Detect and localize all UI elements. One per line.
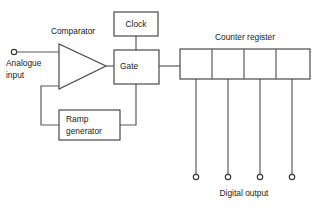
comparator-triangle bbox=[59, 44, 106, 89]
digital-output-terminal-2 bbox=[257, 174, 262, 179]
block-diagram: Comparator Clock Gate Counter register R… bbox=[0, 0, 316, 208]
clock-label: Clock bbox=[126, 19, 148, 29]
wire-ramp-to-comparator bbox=[41, 86, 59, 125]
counter-register-label: Counter register bbox=[215, 32, 275, 42]
analogue-input-label-line2: input bbox=[6, 70, 25, 80]
ramp-generator-label-line2: generator bbox=[66, 126, 102, 136]
analogue-input-terminal bbox=[11, 49, 16, 54]
counter-register-box bbox=[180, 49, 310, 79]
digital-output-terminal-1 bbox=[225, 174, 230, 179]
gate-label: Gate bbox=[120, 61, 138, 71]
digital-output-label: Digital output bbox=[220, 188, 270, 198]
comparator-block bbox=[59, 44, 106, 89]
comparator-label: Comparator bbox=[51, 26, 95, 36]
digital-output-terminal-0 bbox=[193, 174, 198, 179]
analogue-input-label-line1: Analogue bbox=[6, 58, 42, 68]
digital-output-terminal-3 bbox=[289, 174, 294, 179]
counter-register-block bbox=[180, 49, 310, 79]
ramp-generator-label-line1: Ramp bbox=[66, 114, 89, 124]
labels: Comparator Clock Gate Counter register R… bbox=[6, 19, 275, 199]
wire-gate-to-ramp bbox=[120, 84, 136, 125]
diagram-canvas: Comparator Clock Gate Counter register R… bbox=[0, 0, 316, 208]
